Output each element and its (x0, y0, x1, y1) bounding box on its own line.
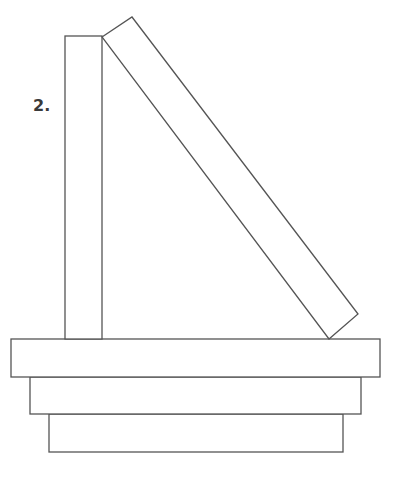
vertical-block (65, 36, 102, 339)
block-stack-diagram (0, 0, 398, 481)
base-slab-middle (30, 377, 361, 414)
base-slab-top (11, 339, 380, 377)
base-slab-bottom (49, 414, 343, 452)
tilted-block (102, 17, 358, 339)
